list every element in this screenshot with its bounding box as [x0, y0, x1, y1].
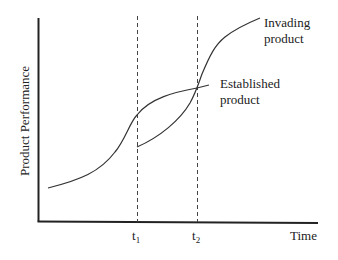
established-product-label: Established product — [220, 76, 283, 107]
t1-label: t1 — [132, 228, 140, 245]
x-axis — [38, 222, 319, 224]
y-axis-label: Product Performance — [17, 66, 32, 176]
invading-product-label: Invading product — [264, 15, 313, 46]
x-axis-label: Time — [290, 228, 317, 243]
established-product-curve — [48, 85, 209, 188]
s-curve-diagram: Product Performance Time t1 t2 Invading … — [0, 0, 338, 260]
t2-label: t2 — [192, 228, 200, 245]
